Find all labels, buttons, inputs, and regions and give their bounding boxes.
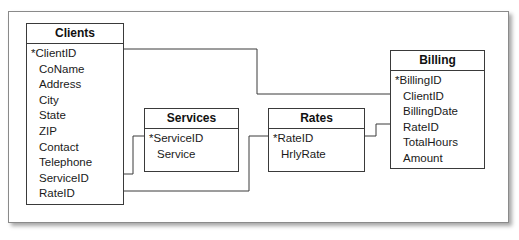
entity-clients[interactable]: Clients *ClientID CoName Address City St… [26,23,124,205]
entity-title: Clients [27,24,123,44]
field-clientid: *ClientID [27,46,123,62]
field-address: Address [27,77,123,93]
entity-title: Rates [269,109,364,129]
field-amount: Amount [391,151,484,167]
entity-billing[interactable]: Billing *BillingID ClientID BillingDate … [390,50,485,169]
field-rateid: RateID [27,186,123,202]
field-billingid: *BillingID [391,73,484,89]
link-clientid-billing [123,49,390,94]
field-serviceid: ServiceID [27,171,123,187]
field-billingdate: BillingDate [391,104,484,120]
link-serviceid-services [123,136,144,174]
field-zip: ZIP [27,124,123,140]
entity-services[interactable]: Services *ServiceID Service [144,108,239,172]
field-state: State [27,108,123,124]
field-service: Service [145,147,238,163]
field-telephone: Telephone [27,155,123,171]
field-totalhours: TotalHours [391,135,484,151]
field-hrlyrate: HrlyRate [269,147,364,163]
link-rates-billing [364,124,390,136]
field-coname: CoName [27,62,123,78]
field-rateid: RateID [391,120,484,136]
field-contact: Contact [27,140,123,156]
entity-title: Billing [391,51,484,71]
field-serviceid: *ServiceID [145,131,238,147]
entity-title: Services [145,109,238,129]
field-clientid: ClientID [391,89,484,105]
entity-rates[interactable]: Rates *RateID HrlyRate [268,108,365,172]
field-rateid: *RateID [269,131,364,147]
field-city: City [27,93,123,109]
